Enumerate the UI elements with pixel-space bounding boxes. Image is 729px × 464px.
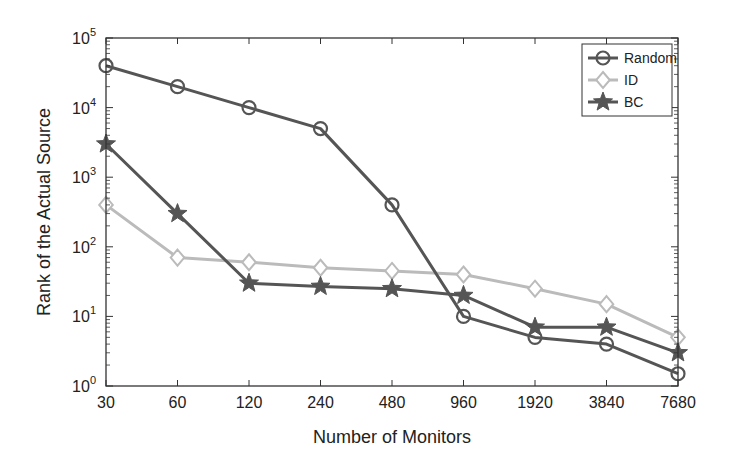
legend-label: BC (624, 94, 643, 110)
y-tick-label: 102 (72, 235, 96, 256)
star-marker (526, 317, 545, 335)
legend: RandomIDBC (582, 44, 677, 116)
y-axis-title: Rank of the Actual Source (34, 108, 54, 316)
diamond-marker (314, 260, 328, 276)
star-marker (383, 279, 402, 297)
diamond-marker (457, 266, 471, 282)
x-tick-label: 960 (450, 394, 477, 411)
series-bc (97, 134, 688, 361)
x-tick-label: 1920 (517, 394, 553, 411)
star-marker (597, 317, 616, 335)
x-tick-label: 240 (307, 394, 334, 411)
x-axis-title: Number of Monitors (313, 427, 471, 447)
y-tick-label: 101 (72, 304, 96, 325)
diamond-marker (600, 296, 614, 312)
x-tick-label: 7680 (660, 394, 696, 411)
x-tick-label: 480 (379, 394, 406, 411)
legend-label: ID (624, 72, 638, 88)
star-marker (454, 285, 473, 303)
diamond-marker (385, 263, 399, 279)
x-tick-label: 30 (97, 394, 115, 411)
x-tick-label: 120 (236, 394, 263, 411)
diamond-marker (171, 250, 185, 266)
y-tick-label: 100 (72, 374, 96, 395)
legend-item-random: Random (588, 50, 677, 66)
star-marker (311, 276, 330, 294)
line-chart: 3060120240480960192038407680100101102103… (0, 0, 729, 464)
series-id (99, 197, 685, 345)
diamond-marker (242, 254, 256, 270)
legend-label: Random (624, 50, 677, 66)
x-tick-label: 60 (169, 394, 187, 411)
y-tick-label: 103 (72, 165, 96, 186)
diamond-marker (528, 281, 542, 297)
x-tick-label: 3840 (589, 394, 625, 411)
y-tick-label: 105 (72, 26, 96, 47)
y-tick-label: 104 (72, 96, 96, 117)
